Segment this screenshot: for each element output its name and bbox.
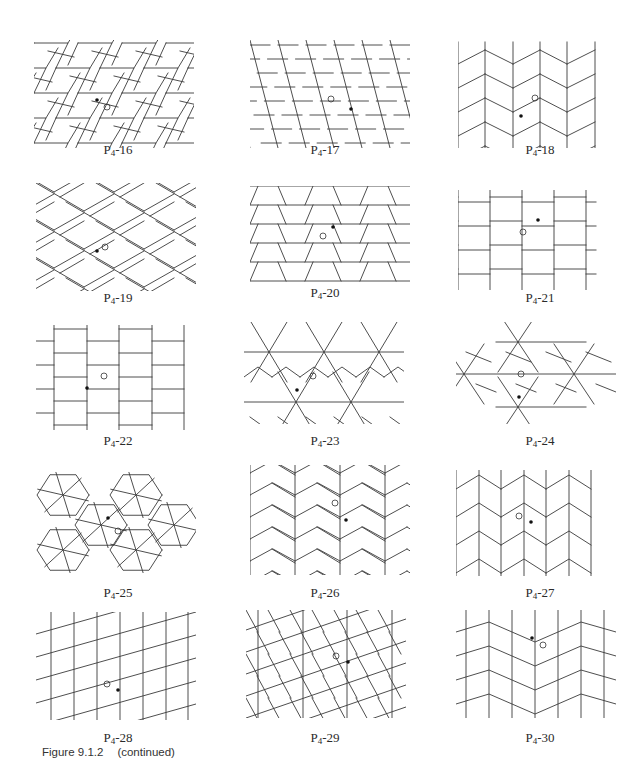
label-number: -30 [537, 730, 554, 745]
tiling-drawing [458, 40, 618, 148]
tiling-label: P4-21 [525, 290, 554, 306]
tiling-panel-p4-20 [250, 186, 410, 292]
center-dot-marker [95, 249, 99, 253]
label-number: -26 [322, 585, 339, 600]
tiling-drawing [458, 190, 618, 290]
tiling-drawing [36, 612, 196, 720]
tiling-panel-p4-25 [36, 465, 196, 575]
tiling-panel-p4-18 [458, 40, 618, 148]
label-number: -19 [115, 290, 132, 305]
tiling-panel-p4-19 [36, 183, 196, 291]
tiling-drawing [244, 322, 404, 424]
tiling-label: P4-28 [103, 730, 132, 746]
tiling-label: P4-26 [310, 585, 339, 601]
center-dot-marker [85, 386, 89, 390]
tiling-label: P4-24 [525, 433, 554, 449]
center-dot-marker [295, 388, 299, 392]
label-number: -21 [537, 290, 554, 305]
tiling-panel-p4-26 [250, 465, 410, 575]
label-number: -25 [115, 585, 132, 600]
tiling-panel-p4-21 [458, 190, 618, 290]
tiling-panel-p4-24 [456, 322, 616, 424]
figure-caption: Figure 9.1.2(continued) [42, 746, 175, 758]
center-dot-marker [116, 688, 120, 692]
tiling-panel-p4-17 [250, 40, 410, 148]
center-dot-marker [519, 114, 523, 118]
tiling-panel-p4-28 [36, 612, 196, 720]
open-circle-marker [320, 233, 326, 239]
open-circle-marker [520, 229, 526, 235]
tiling-label: P4-29 [310, 730, 339, 746]
tiling-label: P4-16 [103, 142, 132, 158]
center-dot-marker [536, 218, 540, 222]
tiling-drawing [250, 40, 410, 148]
tiling-drawing [250, 465, 410, 575]
tiling-drawing [456, 610, 616, 718]
tiling-drawing [456, 470, 616, 576]
label-number: -29 [322, 730, 339, 745]
tiling-label: P4-18 [525, 142, 554, 158]
tiling-label: P4-22 [103, 433, 132, 449]
tiling-drawing [36, 465, 196, 575]
center-dot-marker [517, 395, 521, 399]
open-circle-marker [540, 642, 546, 648]
center-dot-marker [344, 518, 348, 522]
caption-note: (continued) [117, 746, 175, 758]
tiling-label: P4-23 [310, 433, 339, 449]
label-number: -23 [322, 433, 339, 448]
label-number: -18 [537, 142, 554, 157]
label-number: -20 [322, 285, 339, 300]
open-circle-marker [332, 500, 338, 506]
open-circle-marker [516, 513, 522, 519]
label-number: -24 [537, 433, 554, 448]
label-number: -22 [115, 433, 132, 448]
tiling-drawing [36, 183, 196, 291]
tiling-drawing [36, 325, 196, 430]
tiling-drawing [34, 40, 194, 148]
tiling-panel-p4-30 [456, 610, 616, 718]
label-number: -17 [322, 142, 339, 157]
label-number: -28 [115, 730, 132, 745]
tiling-panel-p4-27 [456, 470, 616, 576]
tiling-label: P4-20 [310, 285, 339, 301]
label-number: -16 [115, 142, 132, 157]
tiling-drawing [246, 610, 406, 718]
tiling-drawing [456, 322, 616, 424]
tiling-panel-p4-29 [246, 610, 406, 718]
tiling-drawing [250, 186, 410, 292]
label-number: -27 [537, 585, 554, 600]
tiling-panel-p4-23 [244, 322, 404, 424]
tiling-panel-p4-22 [36, 325, 196, 430]
tiling-label: P4-27 [525, 585, 554, 601]
tiling-label: P4-30 [525, 730, 554, 746]
center-dot-marker [106, 516, 110, 520]
tiling-label: P4-25 [103, 585, 132, 601]
center-dot-marker [349, 107, 353, 111]
center-dot-marker [346, 660, 350, 664]
center-dot-marker [95, 98, 99, 102]
center-dot-marker [530, 636, 534, 640]
open-circle-marker [101, 373, 107, 379]
center-dot-marker [529, 520, 533, 524]
center-dot-marker [331, 225, 335, 229]
tiling-panel-p4-16 [34, 40, 194, 148]
tiling-label: P4-17 [310, 142, 339, 158]
tiling-label: P4-19 [103, 290, 132, 306]
caption-number: Figure 9.1.2 [42, 746, 103, 758]
